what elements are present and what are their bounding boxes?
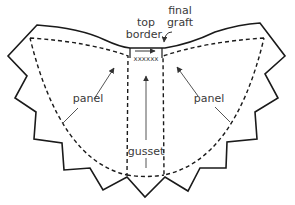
final-graft-arrow-icon <box>164 32 172 42</box>
shawl-schematic: xxxxxx gusset panel panel top border fin… <box>0 0 295 205</box>
panel-right-label: panel <box>194 92 225 105</box>
stitches-label: xxxxxx <box>134 55 159 63</box>
left-panel-tail-line <box>62 108 78 124</box>
right-panel-tail-line <box>215 107 230 122</box>
right-panel-dashed <box>163 38 264 175</box>
left-panel-dashed <box>30 38 128 175</box>
top-border-label-line2: border <box>126 28 163 41</box>
panel-left-label: panel <box>73 92 104 105</box>
gusset-label: gusset <box>128 145 165 158</box>
final-graft-label-line2: graft <box>167 16 194 29</box>
gusset-bottom-dashed <box>127 175 164 177</box>
